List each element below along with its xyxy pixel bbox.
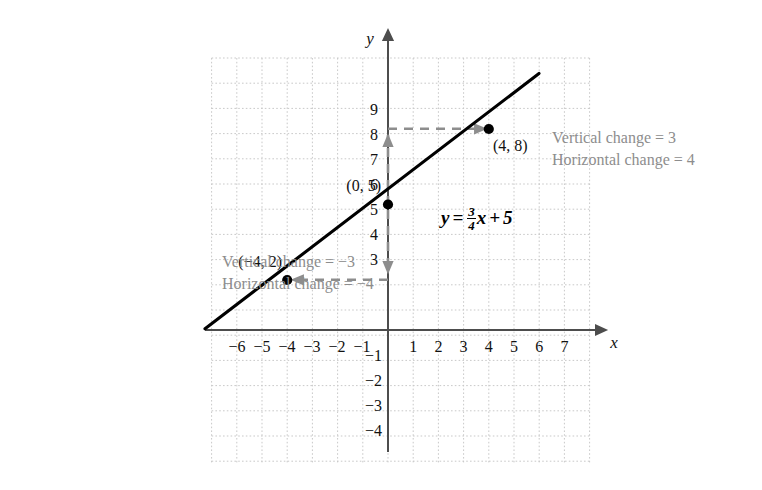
x-tick-1: 1 xyxy=(409,338,417,355)
point-label-4-8: (4, 8) xyxy=(493,137,528,155)
x-tick--3: −3 xyxy=(303,338,320,355)
x-axis-label: x xyxy=(609,333,618,352)
y-axis-label: y xyxy=(364,29,374,48)
x-tick-3: 3 xyxy=(460,338,468,355)
x-tick-labels-positive: 1 2 3 4 5 6 7 xyxy=(409,338,568,355)
point-0-5 xyxy=(383,199,393,209)
y-tick-labels-negative: −1 −2 −3 −4 xyxy=(365,347,382,439)
x-tick-4: 4 xyxy=(485,338,493,355)
equation-equals: = xyxy=(449,207,466,228)
y-tick--4: −4 xyxy=(365,422,382,439)
coordinate-plane-svg: y x −6 −5 −4 −3 −2 −1 1 2 3 4 5 6 7 9 8 … xyxy=(0,0,762,490)
x-tick-7: 7 xyxy=(560,338,568,355)
graph-figure: y x −6 −5 −4 −3 −2 −1 1 2 3 4 5 6 7 9 8 … xyxy=(0,0,762,490)
y-tick-9: 9 xyxy=(370,101,378,118)
point-label-0-5: (0, 5) xyxy=(346,177,381,195)
annotation-upper-vertical-change: Vertical change = 3 xyxy=(552,129,676,147)
x-tick-2: 2 xyxy=(434,338,442,355)
y-tick-7: 7 xyxy=(370,151,378,168)
annotation-upper-horizontal-change: Horizontal change = 4 xyxy=(552,151,695,169)
point-4-8 xyxy=(484,124,494,134)
x-tick-6: 6 xyxy=(535,338,543,355)
y-tick--3: −3 xyxy=(365,397,382,414)
x-tick-5: 5 xyxy=(510,338,518,355)
equation-plus: + xyxy=(486,207,503,228)
equation-fraction: 34 xyxy=(467,205,476,233)
equation-label: y=34x+5 xyxy=(441,206,513,234)
annotation-lower-vertical-change: Vertical change = −3 xyxy=(222,253,355,271)
x-tick--2: −2 xyxy=(328,338,345,355)
y-tick-8: 8 xyxy=(370,126,378,143)
equation-denominator: 4 xyxy=(467,218,476,232)
y-tick--1: −1 xyxy=(365,347,382,364)
equation-variable: x xyxy=(477,207,487,228)
x-tick--6: −6 xyxy=(228,338,245,355)
equation-intercept: 5 xyxy=(503,207,513,228)
equation-numerator: 3 xyxy=(467,205,476,218)
x-tick-labels-negative: −6 −5 −4 −3 −2 −1 xyxy=(228,338,370,355)
annotation-lower-horizontal-change: Horizontal change = −4 xyxy=(222,275,374,293)
x-tick--5: −5 xyxy=(253,338,270,355)
y-tick-4: 4 xyxy=(370,226,378,243)
y-tick--2: −2 xyxy=(365,372,382,389)
y-tick-3: 3 xyxy=(370,251,378,268)
x-tick--4: −4 xyxy=(278,338,295,355)
